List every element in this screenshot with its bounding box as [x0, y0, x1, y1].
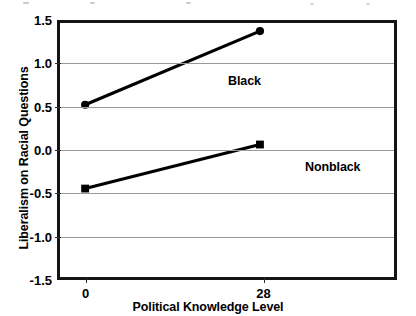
- chart-figure: Liberalism on Racial Questions 1.51.00.5…: [0, 0, 416, 316]
- y-axis-tick-mark: [55, 150, 61, 151]
- gridline: [60, 150, 394, 151]
- y-axis-tick-mark: [55, 237, 61, 238]
- x-axis-tick-label: 28: [256, 286, 270, 301]
- y-axis-tick-mark: [55, 107, 61, 108]
- plot-area: [57, 20, 397, 280]
- y-axis-tick-label: -1.0: [8, 230, 52, 243]
- scan-artifact: [186, 2, 191, 4]
- y-axis-tick-label: 0.5: [8, 100, 52, 113]
- x-axis-tick-mark: [264, 277, 265, 283]
- x-axis-tick-mark: [86, 277, 87, 283]
- nonblack-data-point: [256, 141, 264, 149]
- gridline: [60, 193, 394, 194]
- y-axis-tick-label: -1.5: [8, 274, 52, 287]
- y-axis-tick-labels: 1.51.00.50.0-0.5-1.0-1.5: [6, 0, 52, 316]
- y-axis-tick-mark: [55, 193, 61, 194]
- x-axis-title: Political Knowledge Level: [0, 300, 416, 314]
- gridline: [60, 107, 394, 108]
- nonblack-data-point: [81, 185, 89, 193]
- gridline: [60, 237, 394, 238]
- nonblack-series-label: Nonblack: [305, 160, 360, 174]
- gridline: [60, 63, 394, 64]
- scan-artifact: [366, 3, 370, 5]
- scan-artifact: [90, 2, 95, 4]
- black-series-line: [85, 31, 260, 105]
- black-data-point: [256, 27, 264, 35]
- y-axis-tick-label: 0.0: [8, 144, 52, 157]
- black-series-label: Black: [228, 74, 261, 88]
- nonblack-series-line: [85, 145, 260, 189]
- y-axis-tick-label: 1.0: [8, 57, 52, 70]
- y-axis-tick-label: 1.5: [8, 14, 52, 27]
- x-axis-tick-label: 0: [82, 286, 89, 301]
- y-axis-tick-label: -0.5: [8, 187, 52, 200]
- y-axis-tick-mark: [55, 63, 61, 64]
- scan-artifact: [310, 3, 314, 5]
